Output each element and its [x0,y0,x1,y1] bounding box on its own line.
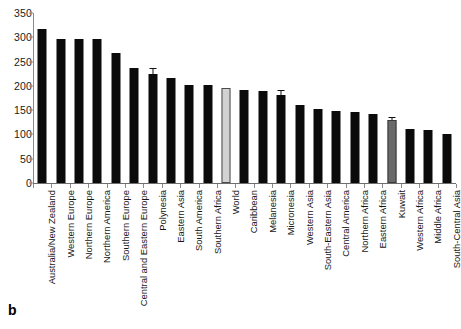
error-bar-cap [278,90,285,91]
x-label-slot: Western Europe [51,190,69,298]
bar [74,39,83,183]
x-axis-label: Western Asia [304,135,313,190]
x-label-slot: Kuwait [382,190,400,298]
x-axis-label: Eastern Africa [378,132,387,190]
x-label-slot: Central and Eastern Europe [125,190,143,298]
x-axis-label: Western Europe [65,122,74,190]
x-label-slot: Eastern Africa [364,190,382,298]
x-tick-mark [33,184,34,188]
x-axis-label: World [231,166,240,190]
x-label-slot: Northern America [88,190,106,298]
bar [38,29,47,183]
bar [258,91,267,183]
x-axis-label: Middle Africa [433,136,442,190]
bar-series [33,13,456,183]
x-label-slot: Southern Europe [107,190,125,298]
x-label-slot: Central America [327,190,345,298]
error-bar [281,91,282,95]
x-axis-label: South-Central Asia [451,112,460,190]
bar [56,39,65,183]
bar [166,78,175,183]
x-label-slot: Western Africa [401,190,419,298]
bar [350,112,359,183]
x-label-slot: South-Eastern Asia [309,190,327,298]
error-bar-cap [388,117,395,118]
x-axis-label: Northern Africa [359,127,368,190]
bar [369,114,378,183]
x-axis-label: Kuwait [396,162,405,190]
bar [277,95,286,183]
x-label-slot: Eastern Asia [162,190,180,298]
x-axis-label: Southern Europe [120,119,129,190]
x-axis-label: Northern America [102,117,111,190]
bar [93,39,102,183]
x-axis-label: Australia/New Zealand [47,96,56,190]
x-label-slot: Western Asia [290,190,308,298]
x-axis-label: Northern Europe [83,121,92,190]
x-label-slot: South America [180,190,198,298]
bar [111,53,120,183]
x-axis-label: Melanesia [267,147,276,190]
panel-label: b [8,302,17,318]
x-label-slot: Southern Africa [199,190,217,298]
error-bar-cap [149,68,156,69]
x-axis-label: Caribbean [249,147,258,190]
bar [442,134,451,183]
x-label-slot: South-Central Asia [438,190,456,298]
x-axis-label: Eastern Asia [175,137,184,190]
x-axis-label: South-Eastern Asia [323,110,332,190]
x-axis-label: Western Africa [415,129,424,190]
x-axis-label: Central and Eastern Europe [139,74,148,190]
figure-panel-b: 050100150200250300350 Australia/New Zeal… [0,0,461,329]
bar [185,85,194,183]
x-axis-label: Central America [341,123,350,190]
x-axis-label-text: South-Central Asia [451,190,460,268]
x-axis-label: South America [194,129,203,190]
bar [148,74,157,183]
x-label-slot: Melanesia [254,190,272,298]
x-label-slot: Micronesia [272,190,290,298]
x-label-slot: Australia/New Zealand [33,190,51,298]
x-axis-line [33,183,456,184]
x-axis-category-labels: Australia/New ZealandWestern EuropeNorth… [33,190,456,300]
x-axis-label: Micronesia [286,145,295,190]
x-axis-label: Polynesia [157,149,166,190]
x-axis-label: Southern Africa [212,126,221,190]
x-label-slot: World [217,190,235,298]
bar [222,88,231,183]
bar [406,129,415,183]
x-label-slot: Polynesia [143,190,161,298]
x-label-slot: Caribbean [235,190,253,298]
bar [295,105,304,183]
x-label-slot: Northern Africa [346,190,364,298]
error-bar [391,118,392,120]
x-label-slot: Middle Africa [419,190,437,298]
bar [314,109,323,183]
bar [203,85,212,183]
x-label-slot: Northern Europe [70,190,88,298]
error-bar [152,69,153,74]
bar [130,68,139,183]
bar [387,120,396,183]
